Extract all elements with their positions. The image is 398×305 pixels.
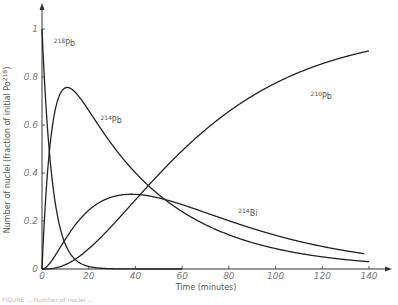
y-tick-label: 0.2 [24,216,39,226]
y-tick-label: 0 [32,264,38,274]
label-218Pb: 218Pb [54,37,75,48]
x-tick-label: 60 [176,271,188,281]
x-tick-label: 20 [83,271,95,281]
curve-labels: 218Pb214Pb214Bi210Pb [54,37,332,218]
y-tick-label: 0.4 [24,168,39,178]
y-tick-label: 1 [32,24,38,34]
decay-chart: 020406080100120140 00.20.40.60.81 Time (… [0,0,398,305]
x-tick-label: 140 [360,271,377,281]
curve-210Pb [42,51,369,269]
figure-caption: FIGURE ... Number of nuclei ... [2,296,93,303]
label-214Bi: 214Bi [238,207,257,218]
x-tick-label: 80 [223,271,235,281]
curve-214Pb [42,87,369,269]
x-axis-title: Time (minutes) [175,283,237,292]
x-tick-label: 120 [314,271,331,281]
label-214Pb: 214Pb [100,114,121,125]
axes: 020406080100120140 00.20.40.60.81 [24,3,392,281]
curve-218Pb [42,29,182,269]
curve-214Bi [42,194,364,269]
x-tick-label: 0 [39,271,45,281]
x-tick-label: 40 [130,271,142,281]
y-axis-title: Number of nuclei (fraction of initial Po… [1,67,12,234]
y-tick-label: 0.8 [24,72,39,82]
y-tick-label: 0.6 [24,120,39,130]
x-axis-arrow-icon [385,267,392,272]
y-axis-arrow-icon [40,3,45,10]
x-ticks: 020406080100120140 [39,266,378,281]
curves [42,29,369,269]
label-210Pb: 210Pb [311,90,332,101]
x-tick-label: 100 [267,271,284,281]
